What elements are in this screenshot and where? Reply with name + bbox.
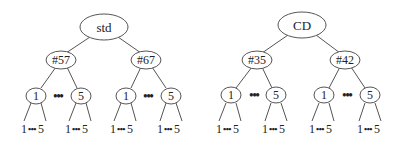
edge [262,67,272,88]
edge [316,35,340,53]
edge [219,103,226,121]
root-label: std [96,20,112,35]
node-label: #42 [336,53,354,67]
edge [359,103,365,121]
leaf-range: 1•••5 [21,122,44,136]
tree-diagrams: std #57 #67 1 ••• 5 1 ••• 5 1•••5 1•••5 … [0,0,402,142]
node-label: 5 [78,89,84,103]
ellipsis: ••• [342,88,352,102]
edge [329,67,340,88]
edge [160,103,166,121]
leaf-range: 1•••5 [216,122,239,136]
edge [176,103,182,121]
node-label: 5 [168,89,174,103]
edge [114,103,121,121]
edge [131,67,141,88]
node-label: 1 [321,88,327,102]
node-label: #67 [137,53,155,67]
edge [262,35,288,53]
node-label: 5 [273,88,279,102]
node-label: 1 [123,89,129,103]
edge [69,103,76,121]
edge [67,67,77,88]
leaf-range: 1•••5 [110,122,133,136]
tree-cd: CD #35 #42 1 ••• 5 1 ••• 5 1•••5 1•••5 1… [216,12,381,136]
edge [24,103,31,121]
edge [281,103,287,121]
edge [41,67,56,88]
node-label: 1 [33,89,39,103]
edge [152,67,166,88]
edge [351,67,365,88]
tree-std: std #57 #67 1 ••• 5 1 ••• 5 1•••5 1•••5 … [21,14,182,136]
edge [236,67,252,88]
edge [375,103,381,121]
ellipsis: ••• [249,88,259,102]
node-label: 5 [367,88,373,102]
root-label: CD [293,18,311,33]
edge [118,37,141,53]
leaf-range: 1•••5 [262,122,285,136]
ellipsis: ••• [53,89,63,103]
edge [86,103,91,121]
edge [41,103,46,121]
edge [329,103,334,121]
node-label: 1 [228,88,234,102]
leaf-range: 1•••5 [65,122,88,136]
edge [312,103,319,121]
edge [265,103,271,121]
edge [131,103,136,121]
node-label: #57 [52,53,70,67]
leaf-range: 1•••5 [309,122,332,136]
node-label: #35 [248,53,266,67]
ellipsis: ••• [143,89,153,103]
edge [236,103,241,121]
leaf-range: 1•••5 [357,122,380,136]
edge [66,37,90,53]
leaf-range: 1•••5 [157,122,180,136]
